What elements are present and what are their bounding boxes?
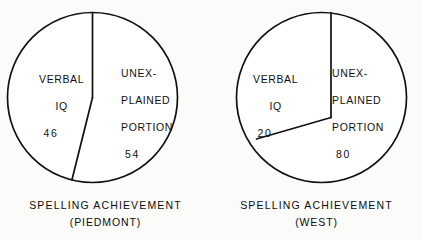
chart-caption-main: SPELLING ACHIEVEMENT: [0, 199, 211, 211]
slice-label-unexplained-portion: UNEX- PLAINED PORTION 54: [97, 53, 179, 189]
chart-caption-sub: (WEST): [211, 216, 422, 228]
slice-label-line-2: IQ: [55, 100, 67, 112]
chart-caption-main: SPELLING ACHIEVEMENT: [211, 199, 422, 211]
slice-label-line-1: VERBAL: [39, 73, 84, 85]
chart-panel-piedmont: VERBAL IQ 46 UNEX- PLAINED PORTION 54 SP…: [0, 0, 211, 239]
slice-label-line-2: PLAINED: [121, 94, 170, 106]
slice-value-verbal-iq: 46: [14, 127, 88, 141]
slice-label-line-2: PLAINED: [332, 94, 381, 106]
slice-value-unexplained-portion: 80: [311, 148, 390, 162]
chart-panel-west: VERBAL IQ 20 UNEX- PLAINED PORTION 80 SP…: [211, 0, 422, 239]
slice-label-line-1: VERBAL: [253, 73, 298, 85]
slice-label-line-3: PORTION: [121, 121, 173, 133]
slice-label-verbal-iq: VERBAL IQ 20: [228, 59, 302, 168]
chart-caption-sub: (PIEDMONT): [0, 216, 211, 228]
slice-label-line-2: IQ: [269, 100, 281, 112]
slice-label-verbal-iq: VERBAL IQ 46: [14, 59, 88, 168]
slice-value-verbal-iq: 20: [228, 127, 302, 141]
slice-value-unexplained-portion: 54: [100, 148, 179, 162]
slice-label-unexplained-portion: UNEX- PLAINED PORTION 80: [308, 53, 390, 189]
slice-label-line-1: UNEX-: [332, 67, 368, 79]
slice-label-line-3: PORTION: [332, 121, 384, 133]
slice-label-line-1: UNEX-: [121, 67, 157, 79]
figure-pie-chart-pair: VERBAL IQ 46 UNEX- PLAINED PORTION 54 SP…: [0, 0, 422, 239]
